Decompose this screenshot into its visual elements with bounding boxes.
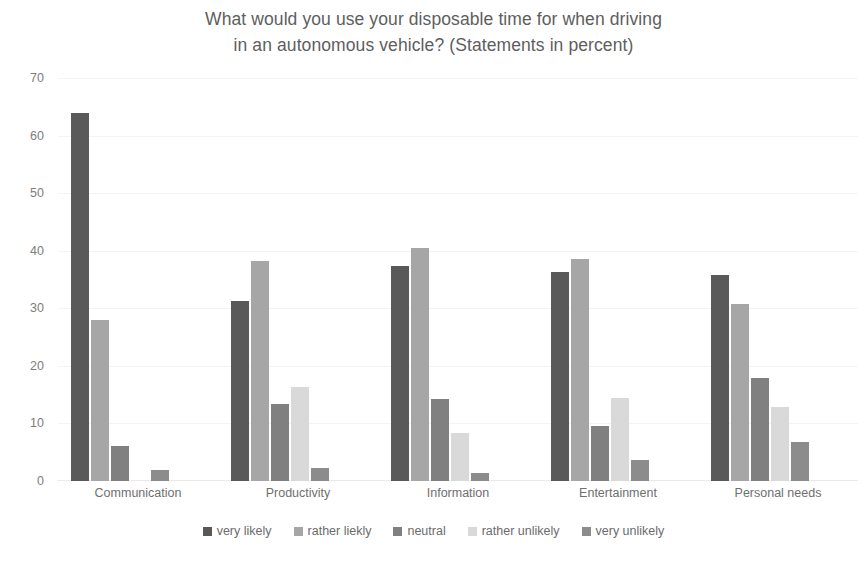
bar xyxy=(111,446,129,481)
legend-label: rather liekly xyxy=(308,524,372,538)
legend-label: very likely xyxy=(217,524,272,538)
bar xyxy=(151,470,169,482)
y-axis-tick-label: 30 xyxy=(0,301,44,315)
bar-group xyxy=(391,78,489,481)
bar-group xyxy=(231,78,329,481)
legend-swatch-icon xyxy=(582,527,591,536)
y-axis: 010203040506070 xyxy=(0,78,50,481)
bar xyxy=(411,248,429,481)
y-axis-tick-label: 70 xyxy=(0,71,44,85)
bar xyxy=(231,301,249,481)
legend-item[interactable]: very unlikely xyxy=(582,524,665,538)
bar-group xyxy=(711,78,809,481)
chart-title: What would you use your disposable time … xyxy=(0,6,867,58)
x-axis-tick-label: Productivity xyxy=(266,486,331,500)
chart-legend: very likelyrather lieklyneutralrather un… xyxy=(0,524,867,538)
bar xyxy=(471,473,489,481)
bar xyxy=(631,460,649,481)
legend-swatch-icon xyxy=(393,527,402,536)
y-axis-tick-label: 60 xyxy=(0,129,44,143)
bar xyxy=(451,433,469,481)
bar xyxy=(91,320,109,481)
legend-swatch-icon xyxy=(203,527,212,536)
x-axis-tick-label: Communication xyxy=(95,486,182,500)
bar xyxy=(771,407,789,481)
x-axis-tick-label: Entertainment xyxy=(579,486,657,500)
bar xyxy=(391,266,409,481)
x-axis-tick-label: Personal needs xyxy=(735,486,822,500)
plot-area xyxy=(58,78,858,481)
bar xyxy=(291,387,309,481)
legend-item[interactable]: neutral xyxy=(393,524,445,538)
legend-swatch-icon xyxy=(294,527,303,536)
legend-swatch-icon xyxy=(468,527,477,536)
bar xyxy=(571,259,589,481)
bar xyxy=(251,261,269,481)
y-axis-tick-label: 0 xyxy=(0,474,44,488)
bar-group xyxy=(71,78,169,481)
bar xyxy=(791,442,809,481)
y-axis-tick-label: 10 xyxy=(0,416,44,430)
bar xyxy=(611,398,629,481)
bar xyxy=(71,113,89,481)
bar xyxy=(751,378,769,481)
bar xyxy=(271,404,289,481)
legend-label: very unlikely xyxy=(596,524,665,538)
bar xyxy=(551,272,569,481)
y-axis-tick-label: 50 xyxy=(0,186,44,200)
legend-label: rather unlikely xyxy=(482,524,560,538)
bar-chart: What would you use your disposable time … xyxy=(0,0,867,574)
x-axis-category-labels: CommunicationProductivityInformationEnte… xyxy=(58,486,858,504)
legend-item[interactable]: very likely xyxy=(203,524,272,538)
bar-group xyxy=(551,78,649,481)
bar xyxy=(711,275,729,481)
bar xyxy=(731,304,749,481)
y-axis-tick-label: 40 xyxy=(0,244,44,258)
legend-item[interactable]: rather unlikely xyxy=(468,524,560,538)
y-axis-tick-label: 20 xyxy=(0,359,44,373)
x-axis-tick-label: Information xyxy=(427,486,490,500)
legend-item[interactable]: rather liekly xyxy=(294,524,372,538)
legend-label: neutral xyxy=(407,524,445,538)
bar xyxy=(591,426,609,481)
bar xyxy=(311,468,329,481)
bar xyxy=(431,399,449,481)
